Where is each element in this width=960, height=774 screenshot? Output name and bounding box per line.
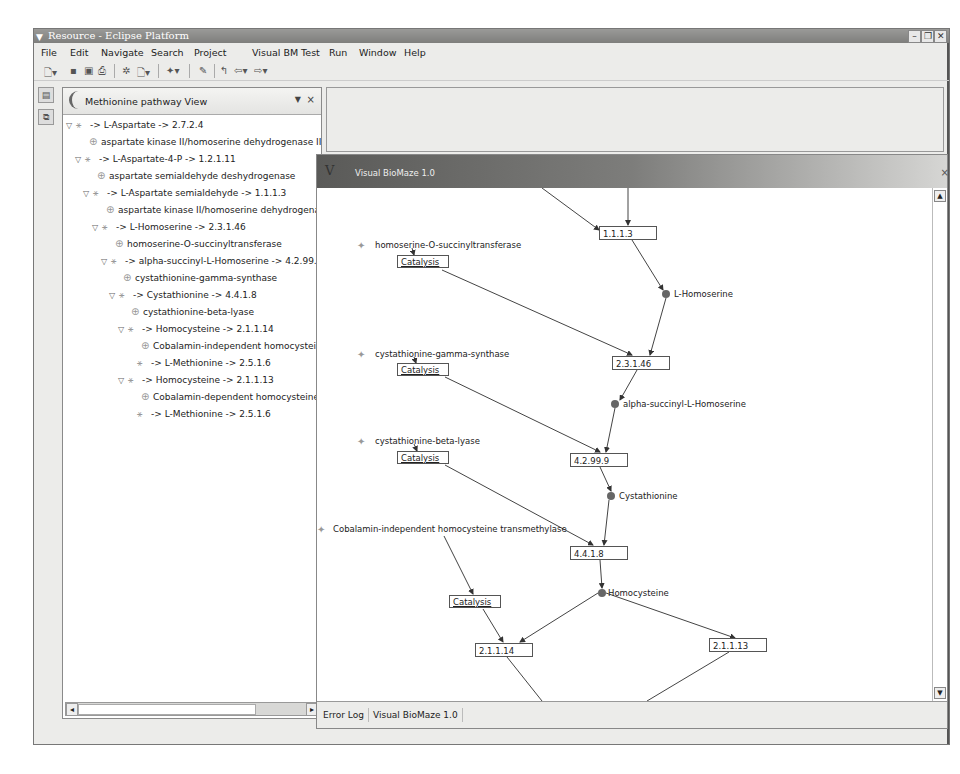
reaction-node[interactable]: 2.1.1.14 [475,643,533,657]
tree-item[interactable]: ▽⚹-> Cystathionine -> 4.4.1.8 [109,288,257,302]
enzyme-icon: ✦ [317,524,325,535]
tab-error-log[interactable]: Error Log [319,708,369,722]
menu-project[interactable]: Project [194,47,227,58]
open-perspective-icon[interactable]: ▤ [38,87,54,103]
expand-toggle-icon[interactable]: ▽ [83,187,93,201]
tree-item[interactable]: ▽⚹-> L-Homoserine -> 2.3.1.46 [92,220,246,234]
window-menu-icon[interactable]: ▼ [36,30,43,44]
resource-perspective-icon[interactable]: ⧉ [38,109,54,125]
menu-help[interactable]: Help [404,47,426,58]
enzyme-label[interactable]: homoserine-O-succinyltransferase [375,240,521,250]
scroll-down-icon[interactable]: ▼ [934,687,946,699]
search-icon[interactable]: ✦▾ [166,65,179,76]
menu-search[interactable]: Search [151,47,184,58]
tree-item[interactable]: ⊕aspartate kinase II/homoserine dehydrog… [89,135,321,149]
tree-item[interactable]: ⊕cystathionine-beta-lyase [131,305,254,319]
catalysis-box[interactable]: Catalysis [449,595,501,608]
scroll-up-icon[interactable]: ▲ [934,190,946,202]
print-icon[interactable]: ⎙ [98,65,106,77]
toolbar-separator [189,64,190,78]
metabolite-node-icon[interactable] [662,290,670,298]
vertical-scrollbar[interactable]: ▲ ▼ [932,188,947,701]
reaction-node[interactable]: 1.1.1.3 [599,226,657,240]
enzyme-label[interactable]: cystathionine-gamma-synthase [375,349,509,359]
reaction-node[interactable]: 4.2.99.9 [570,453,628,467]
enzyme-label[interactable]: Cobalamin-independent homocysteine trans… [333,524,567,534]
menu-window[interactable]: Window [359,47,396,58]
tree-item[interactable]: ▽⚹-> L-Aspartate -> 2.7.2.4 [66,118,203,132]
tree-item[interactable]: ⊕cystathionine-gamma-synthase [123,271,277,285]
expand-toggle-icon[interactable]: ▽ [118,323,128,337]
metabolite-label[interactable]: alpha-succinyl-L-Homoserine [623,399,746,409]
tree-item[interactable]: ▽⚹-> Homocysteine -> 2.1.1.13 [118,373,274,387]
metabolite-label[interactable]: Cystathionine [619,491,678,501]
tree-item[interactable]: ⊕aspartate kinase II/homoserine dehydrog… [106,203,321,217]
tree-item[interactable]: ⊕homoserine-O-succinyltransferase [115,237,282,251]
close-icon[interactable]: ✕ [934,30,947,43]
menu-navigate[interactable]: Navigate [101,47,144,58]
debug-icon[interactable]: ✲ [122,65,130,76]
horizontal-scrollbar[interactable]: ◂ ▸ [65,702,319,716]
maximize-icon[interactable]: ❐ [921,30,934,43]
save-icon[interactable]: ▪ [70,65,77,76]
biomaze-close-icon[interactable]: × [941,167,949,178]
expand-toggle-icon[interactable]: ▽ [109,289,119,303]
expand-toggle-icon[interactable]: ▽ [75,153,85,167]
menu-edit[interactable]: Edit [70,47,88,58]
enzyme-icon: ✦ [357,436,365,447]
view-menu-icon[interactable]: ▼ [295,95,301,104]
enzyme-icon: ⊕ [106,203,118,217]
view-tab[interactable]: Methionine pathway View ▼ × [63,88,321,115]
expand-toggle-icon[interactable]: ▽ [101,255,111,269]
scroll-thumb[interactable] [78,704,256,715]
tree-item[interactable]: ▽⚹-> L-Aspartate semialdehyde -> 1.1.1.3 [83,186,286,200]
pathway-tree: ▽⚹-> L-Aspartate -> 2.7.2.4 ⊕aspartate k… [63,115,321,698]
view-close-icon[interactable]: × [307,94,315,105]
tree-item[interactable]: ▽⚹-> alpha-succinyl-L-Homoserine -> 4.2.… [101,254,321,268]
expand-toggle-icon[interactable]: ▽ [118,374,128,388]
enzyme-label[interactable]: cystathionine-beta-lyase [375,436,480,446]
metabolite-label[interactable]: L-Homoserine [674,289,733,299]
menu-run[interactable]: Run [329,47,347,58]
tree-item[interactable]: ▽⚹-> L-Aspartate-4-P -> 1.2.1.11 [75,152,236,166]
new-dropdown-icon[interactable]: 🗋▾ [137,65,150,82]
back-icon[interactable]: ⇦▾ [234,65,247,76]
tree-item[interactable]: ⚹-> L-Methionine -> 2.5.1.6 [137,407,271,421]
reaction-icon: ⚹ [128,373,142,387]
expand-toggle-icon[interactable]: ▽ [66,119,76,133]
methionine-pathway-view: Methionine pathway View ▼ × ▽⚹-> L-Aspar… [62,87,322,719]
reaction-node[interactable]: 2.3.1.46 [612,356,670,370]
catalysis-box[interactable]: Catalysis [397,363,449,376]
tree-item[interactable]: ⊕Cobalamin-dependent homocysteine t [141,390,321,404]
reaction-node[interactable]: 4.4.1.8 [570,546,628,560]
tree-item[interactable]: ⊕aspartate semialdehyde deshydrogenase [97,169,295,183]
metabolite-node-icon[interactable] [607,492,615,500]
tree-item[interactable]: ⚹-> L-Methionine -> 2.5.1.6 [137,356,271,370]
pathway-graph-canvas[interactable]: 1.1.1.3 2.3.1.46 4.2.99.9 4.4.1.8 2.1.1.… [317,188,931,701]
menu-file[interactable]: File [41,47,57,58]
reaction-icon: ⚹ [128,322,142,336]
window-titlebar[interactable]: ▼ Resource - Eclipse Platform – ❐ ✕ [34,29,949,43]
catalysis-box[interactable]: Catalysis [397,255,449,268]
reaction-node[interactable]: 2.1.1.13 [709,638,767,652]
tree-item[interactable]: ▽⚹-> Homocysteine -> 2.1.1.14 [118,322,274,336]
metabolite-node-icon[interactable] [598,589,606,597]
metabolite-label[interactable]: Homocysteine [608,588,669,598]
reaction-icon: ⚹ [102,220,116,234]
minimize-icon[interactable]: – [908,30,921,43]
toolbar-separator [114,64,115,78]
tab-visual-biomaze[interactable]: Visual BioMaze 1.0 [369,708,463,722]
catalysis-box[interactable]: Catalysis [397,451,449,464]
menu-visual-bm-test[interactable]: Visual BM Test [252,47,320,58]
tree-item[interactable]: ⊕Cobalamin-independent homocysteine [141,339,321,353]
window-title: Resource - Eclipse Platform [48,29,189,43]
edit-icon[interactable]: ✎ [199,65,207,76]
scroll-left-icon[interactable]: ◂ [66,703,78,716]
prev-annotation-icon[interactable]: ↰ [220,65,228,76]
save-all-icon[interactable]: ▣ [84,65,93,76]
enzyme-icon: ⊕ [89,135,101,149]
metabolite-node-icon[interactable] [611,400,619,408]
expand-toggle-icon[interactable]: ▽ [92,221,102,235]
new-wizard-icon[interactable]: 🗋▾ [44,65,57,82]
forward-icon[interactable]: ⇨▾ [254,65,267,76]
